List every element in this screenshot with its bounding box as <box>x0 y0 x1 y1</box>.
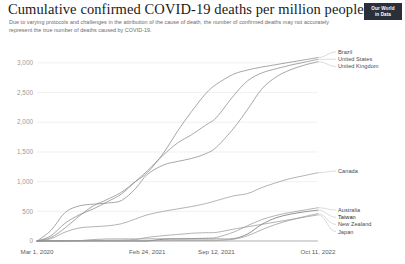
legend-leader-lines <box>318 52 336 232</box>
legend-item-canada[interactable]: Canada <box>338 168 358 174</box>
x-tick-label: Oct 11, 2022 <box>301 248 337 255</box>
chart-container: Cumulative confirmed COVID-19 deaths per… <box>0 0 405 264</box>
y-tick-label: 2,000 <box>17 118 33 125</box>
y-tick-label: 2,500 <box>17 89 33 96</box>
legend-leader-japan <box>318 215 336 232</box>
x-axis-tick-labels: Mar 1, 2020Feb 24, 2021Sep 12, 2021Oct 1… <box>20 248 336 255</box>
y-tick-label: 500 <box>22 208 33 215</box>
legend-item-united-kingdom[interactable]: United Kingdom <box>338 63 379 69</box>
series-line-brazil <box>37 58 318 241</box>
y-tick-label: 1,000 <box>17 178 33 185</box>
x-tick-label: Mar 1, 2020 <box>20 248 54 255</box>
legend-item-taiwan[interactable]: Taiwan <box>338 214 356 220</box>
legend-item-japan[interactable]: Japan <box>338 229 354 235</box>
legend-item-new-zealand[interactable]: New Zealand <box>338 221 372 227</box>
y-axis-tick-labels: 05001,0001,5002,0002,5003,000 <box>17 59 33 244</box>
legend-leader-canada <box>318 171 336 173</box>
y-tick-label: 1,500 <box>17 148 33 155</box>
series-lines <box>37 58 318 242</box>
gridlines <box>37 63 318 211</box>
x-tick-label: Sep 12, 2021 <box>198 248 235 255</box>
plot-area: 05001,0001,5002,0002,5003,000 Mar 1, 202… <box>0 0 405 264</box>
legend-item-united-states[interactable]: United States <box>338 56 372 62</box>
y-tick-label: 3,000 <box>17 59 33 66</box>
series-line-united-kingdom <box>37 62 318 241</box>
legend-item-brazil[interactable]: Brazil <box>338 49 352 55</box>
legend-leader-taiwan <box>318 210 336 217</box>
legend-leader-brazil <box>318 52 336 58</box>
x-tick-label: Feb 24, 2021 <box>129 248 166 255</box>
legend-item-australia[interactable]: Australia <box>338 207 360 213</box>
legend-leader-united-kingdom <box>318 62 336 67</box>
legend-leader-australia <box>318 208 336 210</box>
y-tick-label: 0 <box>29 237 33 244</box>
series-line-canada <box>37 173 318 241</box>
series-line-united-states <box>37 59 318 241</box>
